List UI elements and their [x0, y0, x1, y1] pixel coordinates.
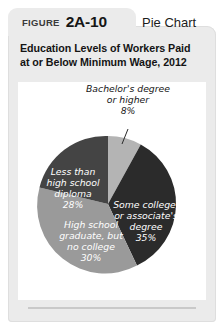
slice-label-some-college-line-3: degree — [130, 221, 163, 232]
pie-chart: Bachelor's degree or higher 8% Less than… — [18, 82, 206, 300]
callout-label-line-2: or higher — [107, 94, 150, 105]
slice-label-some-college-line-2: or associate's — [114, 210, 178, 221]
figure-screenshot: FIGURE 2A-10 Pie Chart Education Levels … — [0, 0, 224, 330]
slice-label-some-college-line-1: Some college, — [113, 199, 179, 210]
figure-number: 2A-10 — [66, 13, 107, 31]
chart-title-line-1: Education Levels of Workers Paid — [20, 42, 204, 56]
callout-label-line-1: Bachelor's degree — [86, 83, 170, 94]
chart-title-line-2: at or Below Minimum Wage, 2012 — [20, 56, 204, 70]
slice-label-less-than-hs-line-3: diploma — [54, 188, 92, 199]
bottom-divider — [28, 307, 196, 309]
slice-label-less-than-hs-line-4: 28% — [63, 199, 84, 210]
figure-label-word: FIGURE — [22, 17, 60, 28]
slice-label-less-than-hs-line-1: Less than — [51, 166, 96, 177]
slice-label-hs-graduate-line-3: no college — [67, 241, 115, 252]
slice-label-less-than-hs-line-2: high school — [46, 177, 99, 188]
slice-label-hs-graduate-line-1: High school — [64, 219, 119, 230]
chart-title: Education Levels of Workers Paid at or B… — [20, 42, 204, 69]
slice-label-hs-graduate-line-4: 30% — [81, 252, 102, 263]
figure-tab: FIGURE 2A-10 — [8, 8, 136, 36]
figure-kind-label: Pie Chart — [142, 8, 196, 36]
callout-label-line-3: 8% — [121, 105, 136, 116]
slice-label-hs-graduate-line-2: graduate, but — [59, 230, 123, 241]
slice-label-some-college-line-4: 35% — [136, 232, 157, 243]
